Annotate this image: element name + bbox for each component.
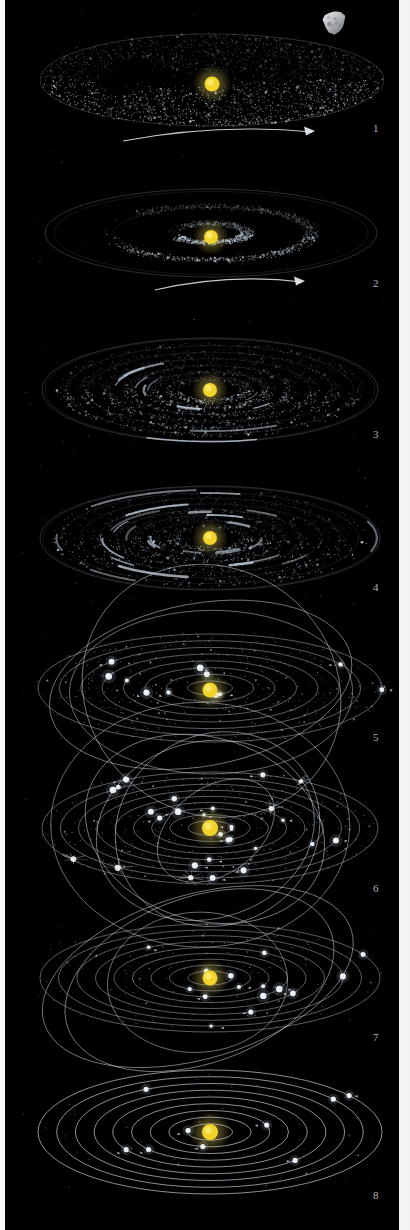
panel-number-3: 3: [373, 428, 379, 440]
panel-number-6: 6: [373, 882, 379, 894]
illustration-plate: 12345678: [0, 0, 410, 1230]
panel-number-4: 4: [373, 581, 379, 593]
panel-8-graphic: [5, 0, 399, 1230]
illustration-canvas: 12345678: [5, 0, 405, 1230]
panel-number-1: 1: [373, 122, 379, 134]
panel-number-5: 5: [373, 731, 379, 743]
panel-number-7: 7: [373, 1031, 379, 1043]
panel-number-2: 2: [373, 277, 379, 289]
panel-number-8: 8: [373, 1189, 379, 1201]
